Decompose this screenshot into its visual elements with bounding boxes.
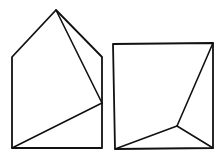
- square-shape-outline: [113, 43, 213, 149]
- square-shape-inner-line-2: [177, 126, 213, 148]
- square-figure: [113, 43, 213, 149]
- pentagon-house-shape-inner-line-1: [12, 103, 102, 148]
- square-shape-inner-line-0: [177, 43, 213, 126]
- pentagon-house-shape-outline: [12, 10, 102, 148]
- square-shape-inner-line-1: [115, 126, 177, 149]
- diagram-canvas: [0, 0, 222, 158]
- pentagon-house-shape-inner-line-0: [56, 10, 102, 103]
- pentagon-figure: [12, 10, 102, 148]
